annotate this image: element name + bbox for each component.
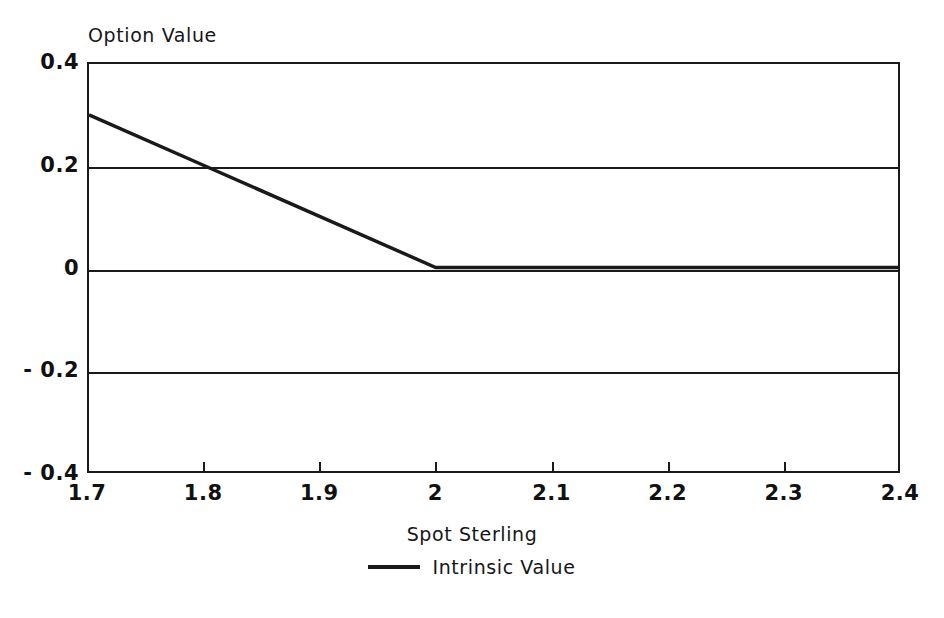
gridline-y xyxy=(89,270,898,272)
y-tick-label: 0.2 xyxy=(1,153,79,177)
x-tick-mark xyxy=(319,462,321,473)
y-tick-label: - 0.2 xyxy=(1,358,79,382)
x-axis-title: Spot Sterling xyxy=(0,523,944,545)
legend-line-swatch-icon xyxy=(368,565,420,569)
x-tick-mark xyxy=(203,462,205,473)
x-axis-tick-labels: 1.71.81.922.12.22.32.4 xyxy=(87,473,900,517)
x-tick-label: 1.7 xyxy=(68,481,107,505)
x-tick-mark xyxy=(784,462,786,473)
plot-area xyxy=(87,62,900,473)
series-line-intrinsic-value xyxy=(89,115,898,268)
x-tick-label: 1.8 xyxy=(184,481,223,505)
gridline-y xyxy=(89,167,898,169)
x-tick-label: 1.9 xyxy=(300,481,339,505)
x-tick-label: 2.4 xyxy=(881,481,920,505)
x-tick-mark xyxy=(435,462,437,473)
x-tick-mark xyxy=(668,462,670,473)
legend-entry-label: Intrinsic Value xyxy=(432,556,575,578)
x-tick-label: 2.3 xyxy=(764,481,803,505)
x-tick-mark xyxy=(552,462,554,473)
data-series-layer xyxy=(89,64,898,471)
gridline-y xyxy=(89,372,898,374)
x-tick-label: 2 xyxy=(428,481,443,505)
chart-figure: Option Value 0.40.20- 0.2- 0.4 1.71.81.9… xyxy=(0,0,944,618)
y-tick-label: 0 xyxy=(1,256,79,280)
y-axis-tick-labels: 0.40.20- 0.2- 0.4 xyxy=(0,62,79,473)
legend: Intrinsic Value xyxy=(0,556,944,578)
x-tick-label: 2.2 xyxy=(648,481,687,505)
y-tick-label: 0.4 xyxy=(1,50,79,74)
y-axis-title: Option Value xyxy=(88,24,217,46)
x-tick-label: 2.1 xyxy=(532,481,571,505)
legend-entry-intrinsic-value: Intrinsic Value xyxy=(368,556,575,578)
